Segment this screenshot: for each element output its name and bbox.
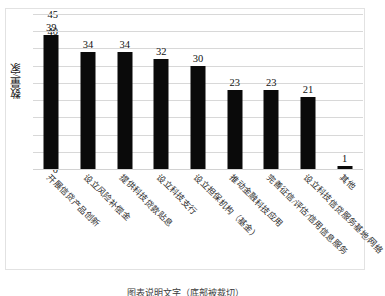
bar-slot: 32 [143, 14, 180, 169]
bar-value-label: 21 [303, 84, 314, 95]
bar-slot: 1 [326, 14, 363, 169]
bar[interactable] [227, 90, 242, 169]
bar-slot: 23 [253, 14, 290, 169]
bar-value-label: 30 [193, 53, 204, 64]
bar[interactable] [190, 66, 205, 169]
bar-slot: 34 [70, 14, 107, 169]
bar[interactable] [154, 59, 169, 169]
bar[interactable] [300, 97, 315, 169]
bar[interactable] [337, 166, 352, 169]
figure-caption: 图表说明文字（底部被裁切） [0, 286, 370, 296]
bar-value-label: 34 [83, 39, 94, 50]
bar[interactable] [44, 35, 59, 169]
bar-value-label: 39 [46, 22, 57, 33]
x-axis-label: 设立担保机构（基金） [192, 172, 261, 241]
bar-slot: 21 [290, 14, 327, 169]
bar-series: 39343432302323211 [33, 14, 363, 169]
bar-slot: 23 [216, 14, 253, 169]
bar-slot: 30 [180, 14, 217, 169]
bar-value-label: 1 [342, 153, 347, 164]
x-axis-label: 其他 [338, 172, 358, 192]
bar-slot: 39 [33, 14, 70, 169]
bar[interactable] [80, 52, 95, 169]
bar-value-label: 34 [119, 39, 130, 50]
bar[interactable] [117, 52, 132, 169]
bar-value-label: 23 [229, 77, 240, 88]
bar-value-label: 32 [156, 46, 167, 57]
y-axis-title: 数量/家 [10, 63, 24, 99]
bar-value-label: 23 [266, 77, 277, 88]
bar[interactable] [264, 90, 279, 169]
bar-slot: 34 [106, 14, 143, 169]
